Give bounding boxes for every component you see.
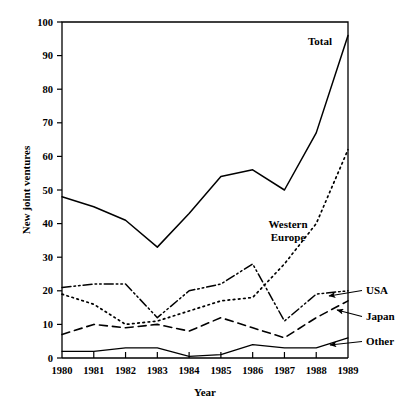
plot-frame <box>62 22 348 358</box>
x-tick-label: 1988 <box>306 365 327 376</box>
y-tick-label: 50 <box>43 185 54 196</box>
series-label-western-europe-line1: Western <box>268 218 307 230</box>
y-tick-label: 100 <box>37 17 53 28</box>
y-tick-label: 30 <box>43 252 54 263</box>
y-axis-tick-labels: 0102030405060708090100 <box>37 17 53 364</box>
x-tick-label: 1986 <box>242 365 263 376</box>
chart-container: 0102030405060708090100 19801981198219831… <box>0 0 405 411</box>
y-tick-label: 40 <box>43 218 54 229</box>
series-line-total <box>62 35 348 247</box>
y-tick-label: 80 <box>43 84 54 95</box>
usa-leader-line <box>329 291 362 297</box>
x-tick-label: 1980 <box>52 365 73 376</box>
x-tick-label: 1985 <box>210 365 231 376</box>
y-tick-label: 90 <box>43 50 54 61</box>
x-tick-label: 1981 <box>83 365 104 376</box>
y-tick-label: 20 <box>43 285 54 296</box>
x-tick-label: 1987 <box>274 365 295 376</box>
y-tick-label: 0 <box>48 353 53 364</box>
series-label-japan: Japan <box>366 310 395 322</box>
y-tick-label: 10 <box>43 319 54 330</box>
x-tick-label: 1983 <box>147 365 168 376</box>
y-axis-ticks <box>57 22 62 358</box>
y-tick-label: 60 <box>43 151 54 162</box>
series-label-other: Other <box>366 335 394 347</box>
japan-leader-line <box>337 310 362 317</box>
x-tick-label: 1989 <box>338 365 359 376</box>
x-tick-label: 1982 <box>115 365 136 376</box>
series-line-usa <box>62 264 348 321</box>
annotation-leader-lines <box>329 291 362 346</box>
line-chart: 0102030405060708090100 19801981198219831… <box>0 0 405 411</box>
x-axis-tick-labels: 1980198119821983198419851986198719881989 <box>52 365 359 376</box>
series-label-usa: USA <box>366 284 388 296</box>
x-axis-title: Year <box>194 386 216 398</box>
data-series-group <box>62 35 348 356</box>
x-tick-label: 1984 <box>179 365 201 376</box>
series-label-total: Total <box>308 35 332 47</box>
series-line-other <box>62 338 348 356</box>
y-tick-label: 70 <box>43 117 54 128</box>
series-label-western-europe-line2: Europe <box>271 231 306 243</box>
y-axis-title: New joint ventures <box>20 145 32 234</box>
